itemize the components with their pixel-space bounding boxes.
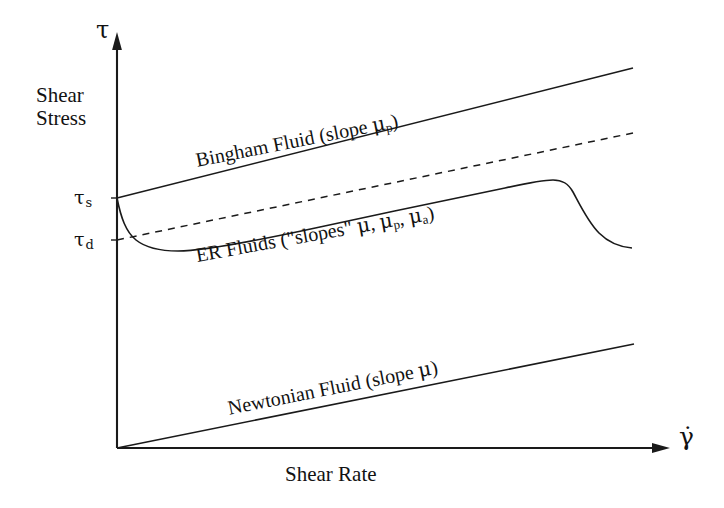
tick-tau-d-subscript: d: [86, 237, 94, 252]
tick-label-tau-d: τd: [74, 228, 93, 250]
y-axis-label-line2: Stress: [36, 107, 86, 130]
tick-tau-s-subscript: s: [86, 195, 93, 210]
rheogram-figure: τ Shear Stress Shear Rate γ̇ τs τd Bingh…: [0, 0, 724, 508]
y-axis-label-line1: Shear: [36, 84, 86, 107]
plot-canvas: [0, 0, 724, 508]
tick-label-tau-s: τs: [74, 186, 91, 208]
x-axis-label: Shear Rate: [285, 463, 377, 486]
tick-tau-d-symbol: τ: [74, 228, 85, 250]
tick-tau-s-symbol: τ: [74, 186, 85, 208]
y-axis-label: Shear Stress: [36, 84, 86, 129]
y-axis-symbol-tau: τ: [96, 18, 109, 44]
curve-newtonian: [117, 344, 634, 448]
x-axis: [117, 443, 670, 453]
x-axis-symbol-gamma-dot: γ̇: [679, 423, 694, 450]
